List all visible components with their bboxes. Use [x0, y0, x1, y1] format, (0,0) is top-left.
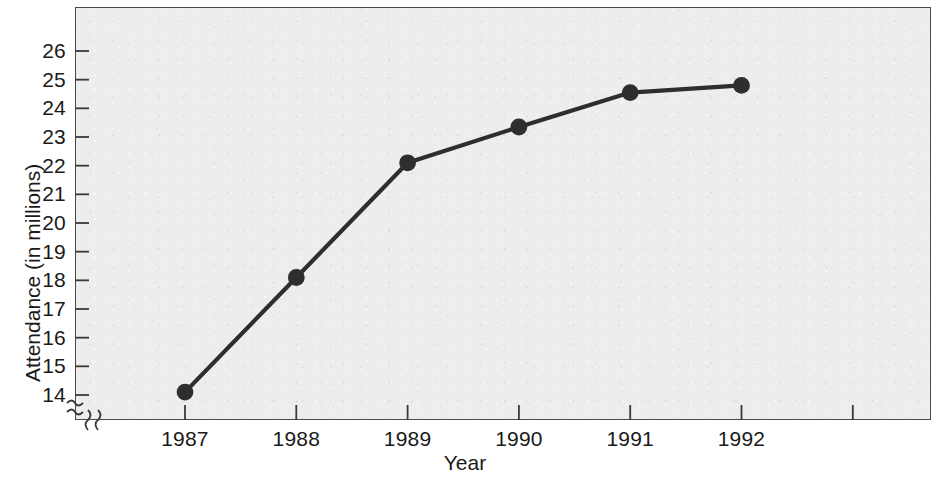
data-point-markers: [177, 77, 750, 401]
x-axis-tick-marks: [185, 405, 853, 420]
y-axis-break-mark: [67, 401, 83, 406]
x-axis-title-text: Year: [444, 451, 486, 474]
x-axis-title: Year: [0, 452, 938, 473]
data-point-1989: [399, 154, 416, 171]
line-chart-figure: 14151617181920212223242526 1987198819891…: [0, 0, 938, 486]
x-axis-break-mark: [86, 410, 91, 430]
data-point-1991: [622, 84, 639, 101]
data-point-1990: [511, 119, 528, 136]
axis-break-marks: [67, 401, 101, 431]
y-axis-title: Attendance (in millions): [22, 164, 43, 382]
y-axis-title-text: Attendance (in millions): [21, 164, 44, 382]
y-axis-break-mark-2: [67, 410, 83, 415]
x-axis-break-mark-2: [96, 410, 101, 430]
data-line-attendance: [185, 85, 742, 392]
chart-overlay: [0, 0, 938, 486]
y-axis-tick-marks: [75, 51, 89, 395]
data-point-1992: [733, 77, 750, 94]
data-point-1987: [177, 384, 194, 401]
data-point-1988: [288, 269, 305, 286]
